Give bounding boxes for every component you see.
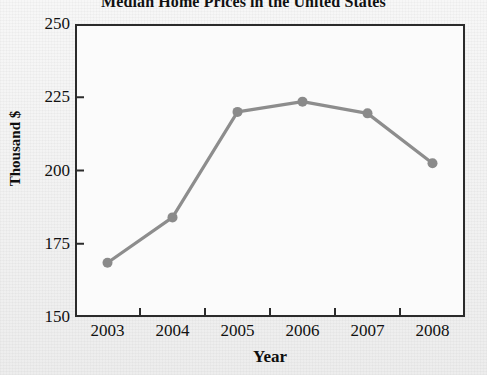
chart-plot-svg [0, 0, 487, 375]
x-axis-tick-marks [140, 308, 400, 317]
data-point-marker [168, 212, 178, 222]
data-point-marker [233, 107, 243, 117]
data-point-markers [103, 97, 438, 268]
chart-container: Median Home Prices in the United States … [0, 0, 487, 375]
data-series-line [108, 102, 433, 263]
data-point-marker [363, 108, 373, 118]
data-point-marker [103, 258, 113, 268]
y-axis-tick-marks [75, 97, 84, 244]
data-point-marker [298, 97, 308, 107]
data-point-marker [428, 158, 438, 168]
